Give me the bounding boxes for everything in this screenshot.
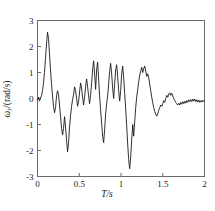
x-tick-label: 2 xyxy=(202,180,207,189)
y-tick-label: 2 xyxy=(16,42,34,51)
y-axis-label: ωy/(rad/s) xyxy=(3,62,13,136)
y-axis-label-symbol: ω xyxy=(2,111,12,118)
x-tick-label: 1.5 xyxy=(157,180,168,189)
y-tick-label: -2 xyxy=(16,146,34,155)
x-tick-label: 1 xyxy=(119,180,124,189)
y-tick-label: 3 xyxy=(16,16,34,25)
plot-frame xyxy=(38,21,205,177)
chart-figure: 00.511.52 -3-2-10123 T/s ωy/(rad/s) xyxy=(0,0,215,211)
y-tick-label: 1 xyxy=(16,68,34,77)
y-axis-label-unit: /(rad/s) xyxy=(2,80,12,107)
x-tick-label: 0.5 xyxy=(74,180,85,189)
y-tick-label: -3 xyxy=(16,172,34,181)
y-tick-label: -1 xyxy=(16,120,34,129)
x-tick-label: 0 xyxy=(35,180,40,189)
y-tick-label: 0 xyxy=(16,94,34,103)
x-axis-label: T/s xyxy=(101,190,113,200)
y-axis-label-subscript: y xyxy=(5,108,12,111)
